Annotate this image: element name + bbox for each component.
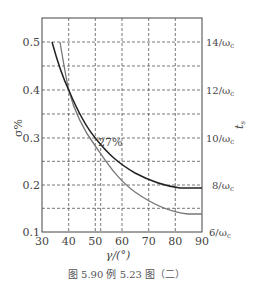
r-tick-12: 12/ωc [206,85,234,98]
x-axis-label: γ/(°) [106,249,130,262]
x-tick-40: 40 [62,235,76,248]
x-axis-ticks: 30 40 50 60 70 80 90 [35,235,209,248]
right-axis-ticks: 14/ωc 12/ωc 10/ωc 8/ωc 6/ωc [206,37,234,240]
x-tick-80: 80 [168,235,182,248]
r-tick-14: 14/ωc [206,37,234,50]
r-tick-8: 8/ωc [212,180,234,193]
y-axis-left-label: σ% [12,119,25,137]
chart-svg: 27% 0.1 0.2 0.3 0.4 0.5 σ% 30 40 50 60 7… [0,0,253,287]
y-tick-0.4: 0.4 [23,84,41,97]
y-tick-0.3: 0.3 [23,132,41,145]
left-axis-ticks: 0.1 0.2 0.3 0.4 0.5 [23,36,41,239]
annotation-27pct: 27% [98,136,122,149]
sigma-curve [52,42,202,188]
x-tick-90: 90 [195,235,209,248]
grid [42,18,202,232]
r-tick-10: 10/ωc [206,133,234,146]
x-tick-50: 50 [88,235,102,248]
y-tick-0.2: 0.2 [23,179,41,192]
x-tick-30: 30 [35,235,49,248]
x-tick-70: 70 [142,235,156,248]
y-axis-right-label: ts [233,121,247,129]
r-tick-6: 6/ωc [209,227,231,240]
figure-caption: 图 5.90 例 5.23 图（二） [0,266,253,281]
y-tick-0.5: 0.5 [23,36,41,49]
x-tick-60: 60 [115,235,129,248]
